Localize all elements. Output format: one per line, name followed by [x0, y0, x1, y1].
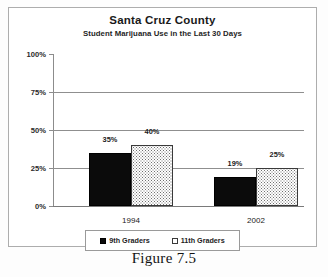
legend-label-9th-graders: 9th Graders — [109, 236, 149, 245]
legend-swatch-icon-9th-graders — [100, 238, 106, 244]
chart-title: Santa Cruz County — [9, 14, 316, 27]
legend-item-9th-graders[interactable]: 9th Graders — [100, 236, 149, 245]
bar-2002-9th-graders[interactable] — [214, 177, 256, 206]
legend-label-11th-graders: 11th Graders — [181, 236, 225, 245]
chart-titles: Santa Cruz County Student Marijuana Use … — [9, 14, 316, 39]
bar-label-2002-9th-graders: 19% — [228, 159, 243, 168]
plot-inner: 100% 75% 50% 25% 0% 35% 40% — [53, 54, 304, 206]
y-axis-label-0: 0% — [35, 202, 46, 211]
bar-1994-11th-graders[interactable] — [131, 145, 173, 206]
y-tick-25 — [49, 168, 53, 169]
gridline-0 — [53, 206, 304, 207]
chart-frame: Santa Cruz County Student Marijuana Use … — [8, 7, 317, 247]
y-axis-label-50: 50% — [31, 126, 46, 135]
y-axis-label-75: 75% — [31, 88, 46, 97]
gridline-50 — [53, 130, 304, 131]
figure-caption: Figure 7.5 — [0, 250, 328, 267]
bar-2002-11th-graders[interactable] — [256, 168, 298, 206]
chart-legend: 9th Graders 11th Graders — [85, 230, 240, 251]
x-axis-label-2002: 2002 — [247, 216, 265, 225]
bar-1994-9th-graders[interactable] — [89, 153, 131, 206]
bar-label-1994-11th-graders: 40% — [145, 127, 160, 136]
bar-label-1994-9th-graders: 35% — [103, 135, 118, 144]
gridline-100 — [53, 54, 304, 55]
y-tick-0 — [49, 206, 53, 207]
figure-page: Santa Cruz County Student Marijuana Use … — [0, 0, 328, 277]
bar-label-2002-11th-graders: 25% — [270, 150, 285, 159]
chart-subtitle: Student Marijuana Use in the Last 30 Day… — [9, 28, 316, 39]
y-tick-50 — [49, 130, 53, 131]
legend-item-11th-graders[interactable]: 11th Graders — [172, 236, 225, 245]
gridline-75 — [53, 92, 304, 93]
legend-swatch-icon-11th-graders — [172, 238, 178, 244]
y-axis-label-100: 100% — [27, 50, 46, 59]
plot-area: 100% 75% 50% 25% 0% 35% 40% — [53, 54, 304, 206]
x-axis-label-1994: 1994 — [122, 216, 140, 225]
y-tick-100 — [49, 54, 53, 55]
y-tick-75 — [49, 92, 53, 93]
y-axis-label-25: 25% — [31, 164, 46, 173]
